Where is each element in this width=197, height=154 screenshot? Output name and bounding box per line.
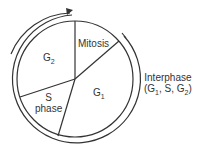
interphase-label: Interphase (G1, S, G2) [144, 72, 192, 98]
interphase-tick [122, 33, 126, 38]
interphase-arc [12, 15, 140, 143]
g1-label: G1 [93, 87, 105, 102]
mitosis-label: Mitosis [78, 38, 109, 49]
s-phase-label: Sphase [35, 92, 62, 114]
arrow-head-icon [66, 8, 73, 15]
g2-label: G2 [43, 52, 55, 67]
